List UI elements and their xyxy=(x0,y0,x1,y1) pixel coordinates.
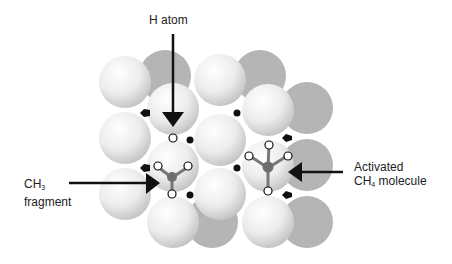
surface-atom xyxy=(99,168,151,220)
ch3-formula: CH3 xyxy=(24,177,71,195)
hydrogen-atom xyxy=(265,141,273,149)
site-marker xyxy=(187,137,194,144)
h-atom-label: H atom xyxy=(149,13,188,27)
surface-diagram xyxy=(0,0,452,264)
h-atom xyxy=(169,134,177,142)
hydrogen-atom xyxy=(168,190,176,198)
surface-atom xyxy=(99,112,151,164)
surface-atom xyxy=(242,84,294,136)
site-marker xyxy=(282,191,292,199)
site-marker xyxy=(187,192,194,199)
surface-atom xyxy=(99,56,151,108)
ch4-text: CH xyxy=(354,174,371,188)
hydrogen-atom xyxy=(184,162,192,170)
surface-atom xyxy=(194,114,246,166)
hydrogen-atom xyxy=(264,187,272,195)
surface-atom xyxy=(242,196,294,248)
ch4-label: Activated CH4 molecule xyxy=(354,160,427,192)
ch3-text: CH xyxy=(24,177,41,191)
ch3-label: CH3 fragment xyxy=(24,177,71,209)
site-marker xyxy=(140,109,150,117)
site-marker xyxy=(140,164,150,172)
surface-atom xyxy=(194,168,246,220)
molecule-text: molecule xyxy=(375,174,426,188)
ch3-fragment-text: fragment xyxy=(24,195,71,209)
hydrogen-atom xyxy=(284,152,292,160)
site-marker xyxy=(234,110,241,117)
carbon-atom xyxy=(167,172,177,182)
hydrogen-atom xyxy=(154,162,162,170)
site-marker xyxy=(234,165,241,172)
carbon-atom xyxy=(263,162,274,173)
site-marker xyxy=(282,134,292,142)
surface-atom xyxy=(147,196,199,248)
surface-atom xyxy=(194,54,246,106)
activated-text: Activated xyxy=(354,160,427,174)
hydrogen-atom xyxy=(245,152,253,160)
ch4-formula: CH4 molecule xyxy=(354,174,427,192)
ch3-subscript: 3 xyxy=(41,184,45,191)
